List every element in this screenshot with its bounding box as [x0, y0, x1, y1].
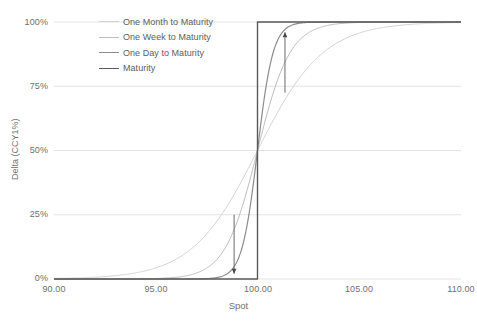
- y-tick-label-100: 100%: [8, 17, 48, 27]
- legend-item-one-week: One Week to Maturity: [99, 30, 213, 46]
- left-down-arrow-head: [232, 269, 237, 274]
- chart-container: 100% 75% 50% 25% 0% 90.00 95.00 100.00 1…: [0, 0, 477, 324]
- right-up-arrow-head: [283, 32, 288, 37]
- y-tick-label-25: 25%: [8, 209, 48, 219]
- legend-swatch-maturity: [99, 68, 119, 69]
- legend-swatch-one-week: [99, 37, 119, 38]
- legend-item-one-month: One Month to Maturity: [99, 14, 213, 30]
- legend-label-one-week: One Week to Maturity: [123, 32, 211, 42]
- legend-swatch-one-day: [99, 52, 119, 53]
- chart-legend: One Month to Maturity One Week to Maturi…: [99, 14, 213, 76]
- legend-item-one-day: One Day to Maturity: [99, 45, 213, 61]
- y-tick-label-75: 75%: [8, 81, 48, 91]
- legend-label-one-day: One Day to Maturity: [123, 48, 204, 58]
- x-tick-label-95: 95.00: [126, 284, 186, 294]
- x-tick-label-105: 105.00: [329, 284, 389, 294]
- x-tick-label-90: 90.00: [24, 284, 84, 294]
- legend-label-maturity: Maturity: [123, 63, 155, 73]
- legend-label-one-month: One Month to Maturity: [123, 17, 213, 27]
- x-axis-title: Spot: [0, 300, 477, 311]
- legend-item-maturity: Maturity: [99, 61, 213, 77]
- y-axis-title: Delta (CCY1%): [10, 118, 20, 180]
- annotation-arrows: [232, 32, 288, 274]
- x-tick-label-110: 110.00: [431, 284, 477, 294]
- chart-plot-area: [0, 0, 477, 324]
- x-tick-label-100: 100.00: [228, 284, 288, 294]
- y-tick-label-0: 0%: [8, 273, 48, 283]
- legend-swatch-one-month: [99, 21, 119, 22]
